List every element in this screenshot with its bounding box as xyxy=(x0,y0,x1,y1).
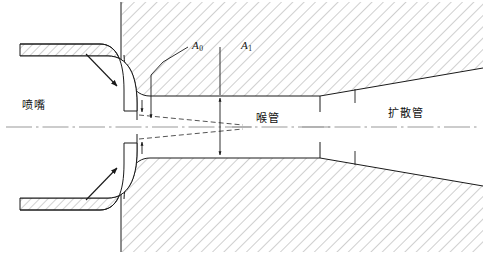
area-nozzle-subscript: 0 xyxy=(199,44,203,53)
throat-diffuser-wall-upper xyxy=(121,2,483,96)
diffuser-label: 扩散管 xyxy=(388,108,424,119)
jet-boundary-lower xyxy=(139,129,243,139)
nozzle-label: 喷嘴 xyxy=(22,100,46,111)
area-throat-subscript: 1 xyxy=(248,44,252,53)
area-throat-label: A1 xyxy=(241,40,251,51)
area-nozzle-label: A0 xyxy=(192,40,202,51)
figure-canvas: 喷嘴 喉管 扩散管 A0 A1 xyxy=(0,0,483,254)
area-throat-symbol: A xyxy=(241,39,248,51)
jet-boundary-upper xyxy=(139,115,243,125)
throat-diffuser-wall-lower xyxy=(121,158,483,252)
throat-label: 喉管 xyxy=(256,113,280,124)
area-nozzle-symbol: A xyxy=(192,39,199,51)
